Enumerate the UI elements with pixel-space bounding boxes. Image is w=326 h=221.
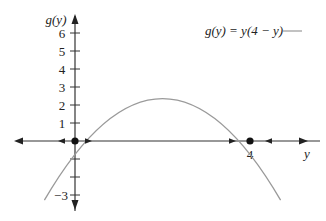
- tick-label-2: 2: [59, 98, 66, 113]
- tick-label-neg3: −3: [54, 188, 68, 203]
- phase-line-chart: 6 5 4 3 2 1 −3 4 g(y) y g(y) = y(4 − y): [0, 0, 326, 221]
- tick-label-5: 5: [59, 44, 66, 59]
- axis-arrow-right-icon: [299, 138, 308, 145]
- phase-arrow-left-icon: [58, 138, 65, 144]
- x-axis-label: y: [302, 146, 310, 161]
- phase-arrow-left-icon: [265, 138, 272, 144]
- equilibrium-point-4: [246, 137, 253, 144]
- axis-arrow-down-icon: [72, 200, 79, 210]
- axis-arrow-up-icon: [72, 14, 79, 24]
- y-axis-label: g(y): [46, 12, 67, 27]
- tick-label-1: 1: [59, 116, 66, 131]
- curve-g-of-y: [44, 99, 280, 201]
- phase-arrow-right-icon: [229, 138, 236, 144]
- equilibrium-point-0: [71, 137, 78, 144]
- axis-arrow-left-icon: [14, 138, 23, 145]
- tick-label-3: 3: [59, 80, 66, 95]
- tick-label-6: 6: [59, 26, 66, 41]
- tick-label-4: 4: [59, 62, 66, 77]
- legend-label: g(y) = y(4 − y): [205, 23, 283, 38]
